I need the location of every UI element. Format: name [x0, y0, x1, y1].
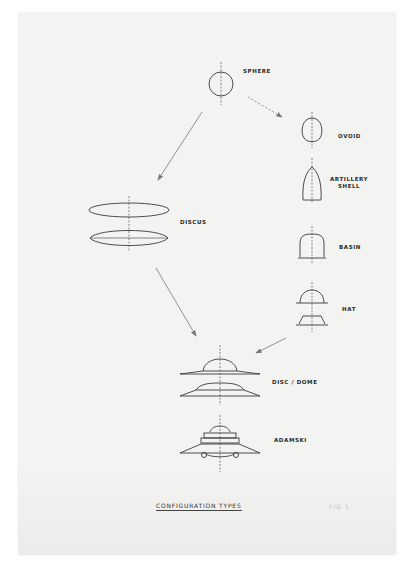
ovoid-shape: [302, 112, 322, 148]
arrow-sphere-to-ovoid: [248, 97, 282, 117]
label-artillery-shell: ARTILLERY SHELL: [330, 176, 368, 190]
hat-shape: [296, 282, 328, 332]
figure-label: FIG 1: [329, 503, 350, 510]
basin-shape: [298, 226, 326, 264]
arrow-hat-to-disc-dome: [256, 338, 286, 353]
configuration-diagram: [0, 0, 402, 571]
arrow-discus-to-disc-dome: [156, 268, 196, 336]
adamski-shape: [180, 415, 260, 472]
label-disc-dome: DISC / DOME: [272, 379, 318, 386]
arrow-sphere-to-discus: [158, 112, 202, 180]
label-basin: BASIN: [339, 244, 361, 251]
artillery-shell-shape: [303, 158, 321, 203]
label-ovoid: OVOID: [338, 133, 361, 140]
diagram-title: CONFIGURATION TYPES: [156, 502, 242, 511]
label-discus: DISCUS: [180, 219, 207, 226]
label-hat: HAT: [342, 306, 356, 313]
label-sphere: SPHERE: [243, 68, 271, 75]
label-adamski: ADAMSKI: [274, 437, 307, 444]
disc-dome-shape: [180, 345, 260, 405]
discus-shape: [89, 196, 169, 252]
sphere-shape: [209, 62, 233, 105]
